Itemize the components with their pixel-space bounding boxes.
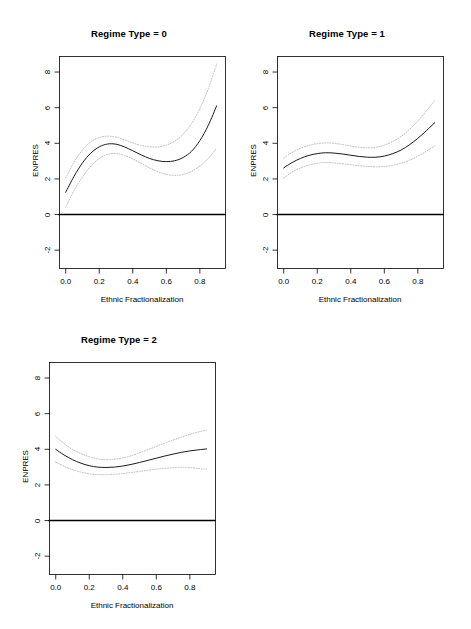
y-axis-title: ENPRES (31, 131, 40, 191)
x-tick-label: 0.6 (379, 277, 390, 286)
chart-panel-regime-0: Regime Type = 0-2024680.00.20.40.60.8Eth… (18, 22, 240, 322)
x-tick-label: 0.0 (50, 583, 61, 592)
series-upper-ci (284, 101, 435, 158)
y-tick-label: 8 (33, 376, 42, 380)
series-lower-ci (66, 148, 217, 207)
y-axis-title: ENPRES (249, 131, 258, 191)
y-tick-label: 0 (33, 518, 42, 522)
y-tick-label: 4 (43, 141, 52, 145)
y-tick-label: 2 (261, 177, 270, 181)
y-tick-label: 0 (261, 212, 270, 216)
y-tick-label: 8 (261, 70, 270, 74)
x-tick-label: 0.2 (94, 277, 105, 286)
series-fit (284, 123, 435, 168)
x-tick-label: 0.4 (117, 583, 128, 592)
y-tick-label: 2 (33, 483, 42, 487)
y-tick-label: -2 (33, 553, 42, 560)
series-upper-ci (66, 64, 217, 178)
x-axis-title: Ethnic Fractionalization (59, 295, 225, 304)
plot-frame (50, 363, 216, 575)
x-tick-label: 0.2 (84, 583, 95, 592)
y-tick-label: 6 (43, 105, 52, 109)
y-tick-label: 6 (33, 411, 42, 415)
y-tick-label: 6 (261, 105, 270, 109)
x-tick-label: 0.8 (184, 583, 195, 592)
x-tick-label: 0.6 (161, 277, 172, 286)
x-tick-label: 0.4 (345, 277, 356, 286)
x-tick-label: 0.0 (60, 277, 71, 286)
series-lower-ci (284, 146, 435, 178)
x-tick-label: 0.2 (312, 277, 323, 286)
y-tick-label: 4 (33, 447, 42, 451)
y-tick-label: 2 (43, 177, 52, 181)
plot-frame (60, 57, 226, 269)
figure-canvas: Regime Type = 0-2024680.00.20.40.60.8Eth… (0, 0, 471, 629)
series-upper-ci (56, 430, 207, 460)
series-fit (56, 449, 207, 468)
y-tick-label: -2 (261, 247, 270, 254)
y-axis-title: ENPRES (21, 437, 30, 497)
plot-frame (278, 57, 444, 269)
x-axis-title: Ethnic Fractionalization (49, 601, 215, 610)
x-tick-label: 0.6 (151, 583, 162, 592)
x-tick-label: 0.8 (194, 277, 205, 286)
y-tick-label: -2 (43, 247, 52, 254)
x-axis-title: Ethnic Fractionalization (277, 295, 443, 304)
y-tick-label: 4 (261, 141, 270, 145)
chart-panel-regime-1: Regime Type = 1-2024680.00.20.40.60.8Eth… (236, 22, 458, 322)
x-tick-label: 0.4 (127, 277, 138, 286)
y-tick-label: 0 (43, 212, 52, 216)
x-tick-label: 0.8 (412, 277, 423, 286)
y-tick-label: 8 (43, 70, 52, 74)
x-tick-label: 0.0 (278, 277, 289, 286)
chart-panel-regime-2: Regime Type = 2-2024680.00.20.40.60.8Eth… (8, 328, 230, 628)
